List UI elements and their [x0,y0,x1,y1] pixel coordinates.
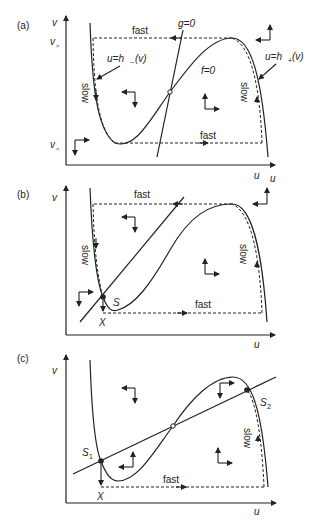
panel-a-fast-bottom-label: fast [200,130,216,141]
panel-c-s2-point [244,387,250,393]
panel-a-direction-arrows-lower-right [205,94,219,109]
panel-b-x-point-label: X [98,317,106,328]
panel-c-direction-arrows-inner-left [119,452,133,467]
svg-text:2: 2 [267,403,271,410]
panel-c-unstable-equilibrium [171,424,175,428]
panel-b: (b) v u u fast fast slow slow S X [17,170,275,350]
panel-c-s2-label: S 2 [260,397,271,410]
panel-a-label: (a) [17,20,29,31]
panel-b-y-axis-label: v [52,192,58,203]
panel-b-x-axis-label: u [254,339,260,350]
svg-text:(v): (v) [292,51,304,62]
panel-a-direction-arrows-top-right [256,25,270,40]
panel-b-direction-arrows-bottom-left [79,292,93,306]
svg-text:>: > [56,43,60,49]
panel-a-direction-arrows-bottom-left [75,140,89,155]
panel-c: (c) v u S 1 S 2 X fast slow [17,353,276,517]
panel-b-x-axis-label-top: u [254,170,260,181]
panel-a-right-branch-label: u=h + (v) [265,51,304,64]
panel-c-slow-right-label: slow [242,428,253,449]
panel-a-fast-top-label: fast [132,25,148,36]
panel-a-y-axis-label: v [52,17,58,28]
panel-c-direction-arrows-lower-right [218,448,232,463]
panel-c-x-point-label: X [96,491,104,502]
panel-b-direction-arrows-lower-right [205,259,219,274]
svg-text:(v): (v) [135,53,147,64]
panel-c-s1-point [98,458,104,464]
panel-c-label: (c) [17,353,29,364]
panel-b-fast-top-label: fast [134,189,150,200]
panel-a-right-branch-pointer [259,64,276,79]
panel-a-left-branch-pointer [97,66,120,79]
panel-c-s1-label: S 1 [82,447,93,460]
panel-b-direction-arrows-upper-left [122,217,135,232]
panel-c-x-axis-label: u [254,506,260,517]
panel-a-unstable-equilibrium [168,90,172,94]
panel-c-fast-bottom-label: fast [163,474,179,485]
v-upper-tick-label: v > [50,36,60,49]
svg-text:S: S [260,397,267,408]
svg-text:<: < [56,146,60,152]
svg-text:S: S [82,447,89,458]
phase-plane-figure: (a) v u v > v < fast fast slow [0,0,321,528]
panel-b-direction-arrows-top-right [253,188,267,204]
panel-b-label: (b) [17,189,29,200]
svg-text:−: − [130,59,134,66]
panel-c-y-axis-label: v [52,365,58,376]
v-lower-tick-label: v < [50,139,60,152]
svg-text:1: 1 [89,453,93,460]
panel-b-stable-point-label: S [113,297,120,308]
panel-a-f-nullcline-label: f=0 [201,65,216,76]
svg-text:u=h: u=h [107,53,124,64]
panel-a-left-branch-label: u=h − (v) [107,53,147,66]
panel-a: (a) v u v > v < fast fast slow [17,16,304,184]
panel-a-x-axis-label: u [270,173,276,184]
panel-b-stable-point [100,294,106,300]
panel-a-slow-left-label: slow [80,83,91,104]
panel-a-direction-arrows-upper-left [122,92,135,107]
panel-a-slow-right-label: slow [239,82,250,103]
panel-b-fast-bottom-label: fast [195,299,211,310]
panel-c-direction-arrows-inner-right [220,383,234,398]
svg-text:u=h: u=h [265,51,282,62]
panel-b-slow-right-label: slow [238,244,249,265]
panel-c-direction-arrows-upper-left [122,388,135,403]
panel-a-g-nullcline-label: g=0 [178,18,195,29]
panel-b-slow-left-label: slow [80,245,91,266]
